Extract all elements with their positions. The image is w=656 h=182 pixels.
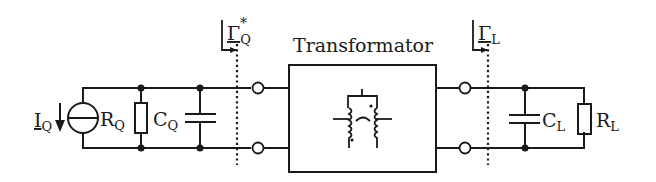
label-load-capacitance: CL — [542, 109, 566, 134]
label-load-resistance: RL — [596, 109, 619, 134]
label-gamma-l: ΓL — [478, 22, 500, 47]
transformer-title: Transformator — [293, 34, 434, 56]
label-source-capacitance: CQ — [153, 108, 178, 133]
terminal-left-bottom — [253, 143, 264, 154]
current-arrow-icon — [55, 104, 65, 132]
source-network: IQ RQ CQ — [34, 83, 289, 154]
capacitor-cq-icon — [186, 85, 215, 152]
terminal-right-top — [460, 83, 471, 94]
terminal-right-bottom — [460, 143, 471, 154]
terminal-left-top — [253, 83, 264, 94]
label-current-source: IQ — [34, 109, 52, 134]
label-source-resistance: RQ — [100, 108, 125, 133]
current-source-icon — [68, 103, 98, 133]
capacitor-cl-icon — [510, 85, 539, 152]
reference-plane-source: ΓQ * — [222, 15, 251, 165]
transformer-block: Transformator — [289, 34, 436, 172]
circuit-diagram: IQ RQ CQ — [0, 0, 656, 182]
load-network: CL RL — [436, 83, 619, 154]
resistor-rq-icon — [135, 85, 147, 152]
transformer-coupled-inductors-icon — [333, 89, 392, 148]
label-gamma-q-conj-sup: * — [240, 15, 247, 31]
resistor-rl-icon — [578, 104, 591, 134]
label-gamma-q-conj: ΓQ — [227, 22, 251, 47]
reference-plane-load: ΓL — [473, 20, 500, 165]
